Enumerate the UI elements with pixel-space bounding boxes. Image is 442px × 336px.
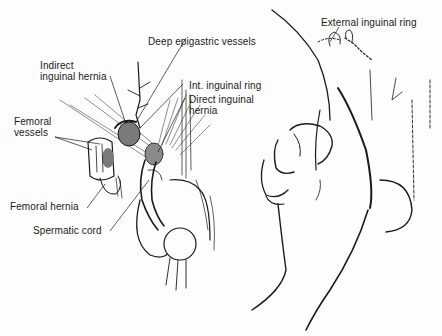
label-direct-inguinal-hernia-line2: hernia	[189, 105, 217, 116]
label-int-inguinal-ring: Int. inguinal ring	[189, 80, 261, 91]
label-indirect-inguinal-hernia-line1: Indirect	[40, 60, 74, 71]
label-deep-epigastric-vessels: Deep epigastric vessels	[148, 36, 256, 47]
label-spermatic-cord: Spermatic cord	[33, 225, 102, 236]
right-exam-drawing	[252, 10, 430, 330]
label-femoral-vessels-line2: vessels	[14, 127, 48, 138]
label-indirect-inguinal-hernia-line2: inguinal hernia	[40, 71, 107, 82]
label-femoral-hernia: Femoral hernia	[10, 201, 79, 212]
label-femoral-vessels-line1: Femoral	[14, 116, 51, 127]
hernia-anatomy-figure: Deep epigastric vessels Indirect inguina…	[0, 0, 442, 336]
label-external-inguinal-ring: External inguinal ring	[321, 17, 417, 28]
illustration-artwork	[0, 0, 442, 336]
label-direct-inguinal-hernia-line1: Direct inguinal	[189, 94, 254, 105]
